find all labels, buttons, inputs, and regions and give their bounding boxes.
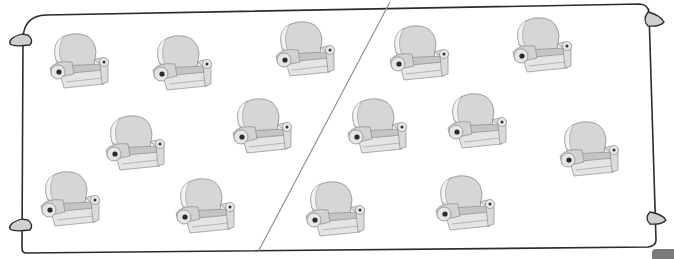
- armchair-icon: [440, 90, 512, 152]
- armchair-icon: [428, 172, 500, 234]
- worksheet-illustration: [0, 0, 674, 259]
- armchair-icon: [268, 18, 340, 80]
- frame-tab-bottom-right: [647, 212, 666, 224]
- frame-tab-bottom-left: [10, 219, 32, 231]
- armchair-icon: [168, 175, 240, 237]
- armchair-icon: [505, 14, 577, 76]
- armchair-icon: [145, 32, 217, 94]
- armchair-icon: [382, 22, 454, 84]
- armchair-icon: [225, 95, 297, 157]
- armchair-icon: [33, 168, 105, 230]
- armchair-icon: [298, 178, 370, 240]
- armchair-icon: [340, 95, 412, 157]
- frame-tab-top-left: [10, 34, 32, 46]
- frame-tab-top-right: [645, 12, 664, 26]
- page-corner-tab: [652, 249, 674, 259]
- armchair-icon: [552, 118, 624, 180]
- armchair-icon: [98, 112, 170, 174]
- armchair-icon: [42, 30, 114, 92]
